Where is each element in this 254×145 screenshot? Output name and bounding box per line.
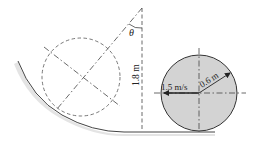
velocity-label: 1.5 m/s xyxy=(161,82,188,92)
inclined-radius-line xyxy=(57,8,142,109)
cylinder-previous-position xyxy=(42,38,120,116)
angle-label: θ xyxy=(129,27,134,38)
cylinder-on-curved-track-diagram: θ 1.8 m 1.5 m/s 0.6 m xyxy=(0,0,254,145)
height-label: 1.8 m xyxy=(131,64,141,86)
perpendicular-axis-line xyxy=(44,47,120,106)
